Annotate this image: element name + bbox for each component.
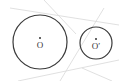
center-point-O (39, 37, 41, 39)
circle-O-prime-group: O′ (80, 27, 112, 59)
center-point-O-prime (95, 38, 97, 40)
tangent-line (82, 68, 112, 81)
two-circles-diagram: O O′ (0, 0, 119, 81)
label-O-prime: O′ (92, 41, 100, 51)
tangent-lines (10, 0, 119, 81)
circle-O-group: O (13, 15, 67, 69)
label-O: O (37, 40, 44, 50)
